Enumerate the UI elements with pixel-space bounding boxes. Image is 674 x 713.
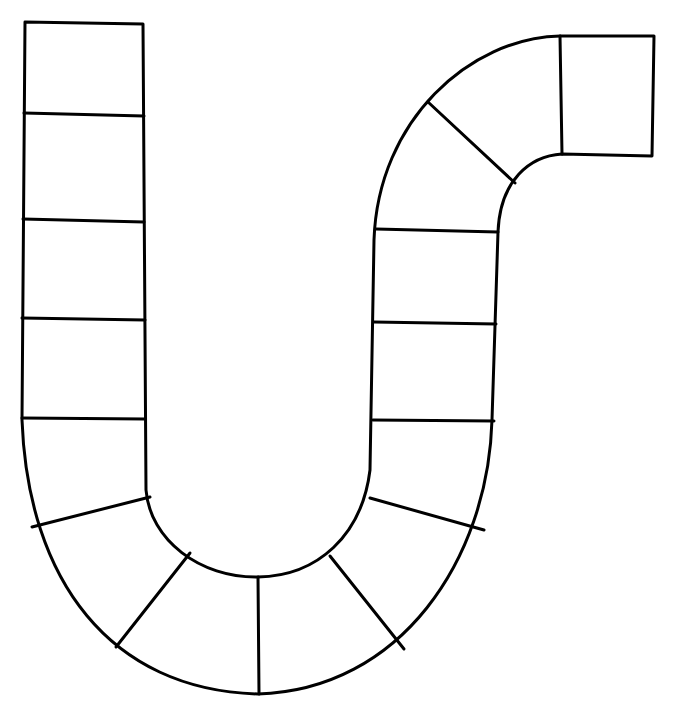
divider: [258, 577, 259, 694]
divider: [373, 420, 494, 421]
divider: [374, 322, 496, 324]
divider: [116, 553, 190, 647]
divider: [24, 113, 144, 116]
board-path-drawing: [0, 0, 674, 713]
divider: [32, 497, 150, 527]
divider: [330, 556, 404, 649]
divider: [22, 318, 145, 320]
divider: [370, 498, 484, 530]
divider: [428, 102, 515, 183]
divider: [23, 219, 144, 222]
path-outer-edge: [22, 22, 654, 694]
divider: [376, 229, 498, 232]
divider: [560, 36, 562, 154]
divider: [22, 418, 145, 419]
game-board: [0, 0, 674, 713]
